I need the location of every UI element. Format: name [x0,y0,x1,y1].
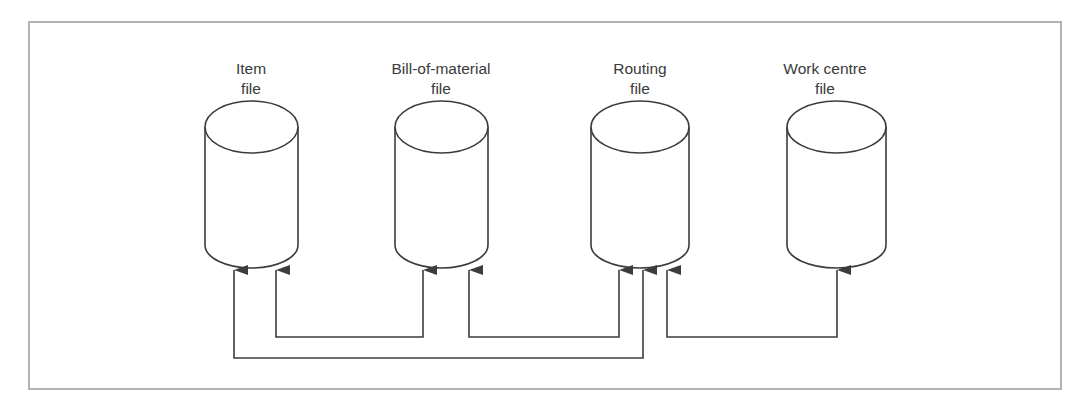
label-item-file: Item file [236,59,266,99]
diagram-canvas [0,0,1081,407]
label-routing-file: Routing file [613,59,666,99]
label-routing-line2: file [613,79,666,99]
connector-item-bom [276,270,423,337]
label-workcentre-line2: file [783,79,866,99]
label-bom-file: Bill-of-material file [391,59,490,99]
label-workcentre-line1: Work centre [783,59,866,79]
label-workcentre-file: Work centre file [783,59,866,99]
label-bom-line2: file [391,79,490,99]
label-routing-line1: Routing [613,59,666,79]
connector-routing-workcentre [667,270,837,337]
cylinder-routing-file-icon [591,101,689,268]
connector-item-routing [234,270,643,358]
cylinder-bom-file-icon [395,101,488,268]
connector-bom-routing [469,270,619,337]
label-item-line1: Item [236,59,266,79]
label-item-line2: file [236,79,266,99]
cylinder-workcentre-file-icon [787,101,886,268]
label-bom-line1: Bill-of-material [391,59,490,79]
cylinder-item-file-icon [205,101,298,268]
